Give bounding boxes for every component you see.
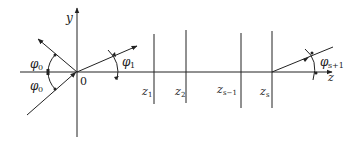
svg-text:2: 2 [181,91,185,99]
z-axis-label: z [327,71,334,84]
svg-text:z: z [259,85,266,98]
angle-label-phi1: φ 1 [122,55,135,70]
reflected-ray [38,39,77,72]
interface-z-s-minus-1: z s−1 [216,33,241,108]
svg-text:0: 0 [38,85,43,94]
svg-text:1: 1 [130,61,135,70]
svg-text:z: z [141,85,148,98]
angle-label-phi0-upper: φ 0 [30,57,43,72]
svg-text:0: 0 [38,63,43,72]
origin-label: 0 [80,75,87,88]
ray-diagram: y z 0 φ 0 φ 0 φ 1 z 1 [0,0,363,145]
svg-text:z: z [174,85,181,98]
svg-text:s−1: s−1 [223,89,237,97]
svg-text:s: s [266,91,270,99]
interface-z2: z 2 [174,30,186,103]
interface-z-s: z s [259,31,272,108]
svg-text:s+1: s+1 [328,61,344,70]
angle-label-phi0-lower: φ 0 [30,79,43,94]
interface-z1: z 1 [141,34,154,104]
svg-text:z: z [216,83,223,96]
svg-text:1: 1 [148,91,152,99]
angle-label-phi-s-plus-1: φ s+1 [320,55,344,70]
y-axis-label: y [65,11,73,25]
